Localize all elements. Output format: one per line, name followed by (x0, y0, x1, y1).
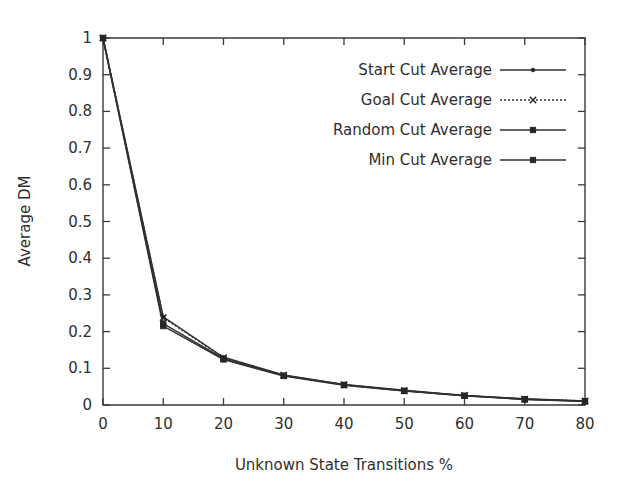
y-tick-label: 0.5 (68, 213, 92, 231)
data-point-marker (582, 399, 587, 404)
x-tick-label: 10 (154, 415, 173, 433)
data-point-marker (530, 157, 535, 162)
y-tick-label: 0.2 (68, 323, 92, 341)
data-point-marker (462, 393, 467, 398)
x-tick-label: 20 (214, 415, 233, 433)
data-point-marker (402, 388, 407, 393)
y-tick-label: 0 (82, 396, 92, 414)
x-tick-label: 50 (395, 415, 414, 433)
y-tick-label: 0.1 (68, 359, 92, 377)
x-tick-label: 40 (334, 415, 353, 433)
data-point-marker (281, 373, 286, 378)
y-tick-label: 0.9 (68, 66, 92, 84)
x-tick-label: 70 (515, 415, 534, 433)
y-tick-label: 1 (82, 29, 92, 47)
data-point-marker (531, 68, 535, 72)
data-point-marker (522, 397, 527, 402)
data-point-marker (100, 35, 105, 40)
line-chart: 01020304050607080 00.10.20.30.40.50.60.7… (0, 0, 623, 487)
legend-label-0: Start Cut Average (358, 61, 492, 79)
chart-figure: 01020304050607080 00.10.20.30.40.50.60.7… (0, 0, 623, 487)
y-axis-label: Average DM (16, 176, 34, 267)
data-point-marker (161, 323, 166, 328)
y-tick-label: 0.4 (68, 249, 92, 267)
x-tick-label: 80 (575, 415, 594, 433)
data-point-marker (530, 127, 535, 132)
y-tick-label: 0.3 (68, 286, 92, 304)
y-tick-label: 0.7 (68, 139, 92, 157)
chart-background (0, 0, 623, 487)
x-axis-label: Unknown State Transitions % (235, 456, 453, 474)
x-tick-label: 0 (98, 415, 108, 433)
data-point-marker (221, 357, 226, 362)
x-tick-label: 60 (455, 415, 474, 433)
x-axis-tick-labels: 01020304050607080 (98, 415, 594, 433)
legend-label-1: Goal Cut Average (361, 91, 492, 109)
legend-label-3: Min Cut Average (368, 151, 492, 169)
y-tick-label: 0.6 (68, 176, 92, 194)
y-tick-label: 0.8 (68, 102, 92, 120)
data-point-marker (341, 383, 346, 388)
legend-label-2: Random Cut Average (333, 121, 492, 139)
x-tick-label: 30 (274, 415, 293, 433)
